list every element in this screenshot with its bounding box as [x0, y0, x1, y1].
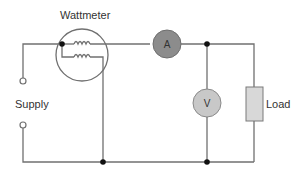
voltmeter: V	[193, 89, 221, 117]
supply-label: Supply	[15, 98, 49, 110]
load-resistor	[246, 87, 263, 121]
wattmeter-label: Wattmeter	[60, 9, 111, 21]
wattmeter-junction	[59, 41, 65, 47]
wattmeter	[56, 29, 150, 162]
voltmeter-label: V	[204, 98, 211, 109]
load-label: Load	[266, 98, 290, 110]
supply-terminal-bottom	[20, 122, 26, 128]
junction-top-right	[204, 41, 210, 47]
junction-bottom-left	[100, 159, 106, 165]
wattmeter-body	[56, 29, 108, 81]
supply-terminal-top	[20, 78, 26, 84]
circuit-diagram: Supply Wattmeter A V Load	[0, 0, 305, 171]
junction-bottom-right	[204, 159, 210, 165]
ammeter-label: A	[164, 39, 171, 50]
ammeter: A	[153, 30, 181, 58]
